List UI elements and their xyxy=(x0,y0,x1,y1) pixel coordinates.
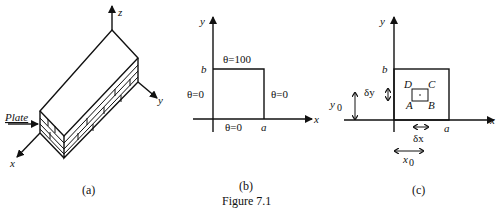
left-bc-label: θ=0 xyxy=(187,88,204,100)
panel-a-label: (a) xyxy=(82,183,95,197)
vertex-b-label: B xyxy=(428,99,435,111)
corner-b-label: b xyxy=(201,63,207,75)
panel-c-element: y x b a D C A B δy y0 δx x0 (c) xyxy=(329,15,495,197)
corner-a-label: a xyxy=(444,122,450,134)
y-axis-label: y xyxy=(199,15,205,27)
figure-caption: Figure 7.1 xyxy=(222,194,271,208)
z-axis-label: z xyxy=(117,6,123,18)
panel-b-boundary-conditions: y x b a θ=100 θ=0 θ=0 θ=0 (b) xyxy=(187,15,319,193)
plate-annotation: Plate xyxy=(4,111,28,123)
panel-c-label: (c) xyxy=(412,183,425,197)
vertex-c-label: C xyxy=(428,78,436,90)
delta-x-label: δx xyxy=(413,132,424,144)
bottom-bc-label: θ=0 xyxy=(225,121,242,133)
y0-label: y0 xyxy=(329,98,342,113)
element-center-dot xyxy=(419,94,421,96)
delta-y-label: δy xyxy=(364,86,375,98)
x-axis-label: x xyxy=(489,114,495,126)
x-axis-arrow xyxy=(17,133,40,157)
panel-a-plate-stack: z y x Plate (a) xyxy=(4,6,163,197)
right-bc-label: θ=0 xyxy=(271,88,288,100)
plate-rectangle xyxy=(213,69,264,119)
figure-canvas: z y x Plate (a) y xyxy=(0,0,499,209)
x-axis-label: x xyxy=(313,113,319,125)
vertex-d-label: D xyxy=(403,78,412,90)
x0-label: x0 xyxy=(402,153,414,168)
vertex-a-label: A xyxy=(405,99,413,111)
panel-b-label: (b) xyxy=(239,179,253,193)
corner-b-label: b xyxy=(382,63,388,75)
y-axis-label: y xyxy=(379,15,385,27)
layer-line xyxy=(40,77,138,154)
corner-a-label: a xyxy=(261,121,267,133)
top-face xyxy=(40,30,138,136)
top-bc-label: θ=100 xyxy=(223,53,251,65)
x-axis-label: x xyxy=(9,157,15,169)
y-axis-label: y xyxy=(157,94,163,106)
plate-rectangle xyxy=(394,69,449,120)
y-axis-arrow xyxy=(138,82,157,98)
